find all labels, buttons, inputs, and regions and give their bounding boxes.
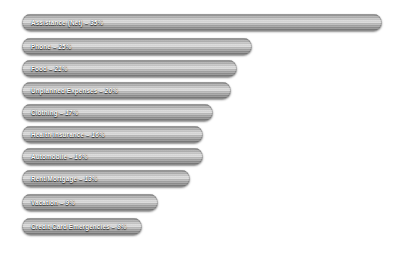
bar-vacation[interactable]: Vacation – 9% [22,194,158,211]
bar-label: Health Insurance – 16% [31,126,105,143]
bar-automobile[interactable]: Automobile – 16% [22,148,203,165]
bar-label: Rent/Mortgage – 13% [31,170,98,187]
bar-row[interactable]: Unplanned Expenses – 20% [22,82,231,99]
horizontal-bar-chart: Assistance (Net) – 35% Phone – 25% Food … [0,0,400,259]
bar-label: Phone – 25% [31,38,72,55]
bar-label: Automobile – 16% [31,148,88,165]
bar-row[interactable]: Phone – 25% [22,38,252,55]
bar-label: Clothing – 17% [31,104,78,121]
bar-row[interactable]: Vacation – 9% [22,194,158,211]
bar-label: Vacation – 9% [31,194,75,211]
bar-label: Credit Card Emergencies – 8% [31,218,127,235]
bar-rent-mortgage[interactable]: Rent/Mortgage – 13% [22,170,190,187]
bar-row[interactable]: Assistance (Net) – 35% [22,14,382,31]
bar-label: Unplanned Expenses – 20% [31,82,118,99]
bar-label: Food – 21% [31,60,68,77]
bar-row[interactable]: Health Insurance – 16% [22,126,203,143]
bar-clothing[interactable]: Clothing – 17% [22,104,213,121]
bar-row[interactable]: Rent/Mortgage – 13% [22,170,190,187]
bar-row[interactable]: Automobile – 16% [22,148,203,165]
bar-label: Assistance (Net) – 35% [31,14,103,31]
bar-food[interactable]: Food – 21% [22,60,237,77]
bar-row[interactable]: Food – 21% [22,60,237,77]
bar-unplanned-expenses[interactable]: Unplanned Expenses – 20% [22,82,231,99]
bar-row[interactable]: Clothing – 17% [22,104,213,121]
bar-health-insurance[interactable]: Health Insurance – 16% [22,126,203,143]
bar-phone[interactable]: Phone – 25% [22,38,252,55]
bar-credit-card-emergencies[interactable]: Credit Card Emergencies – 8% [22,218,142,235]
bar-row[interactable]: Credit Card Emergencies – 8% [22,218,142,235]
bar-assistance-net[interactable]: Assistance (Net) – 35% [22,14,382,31]
